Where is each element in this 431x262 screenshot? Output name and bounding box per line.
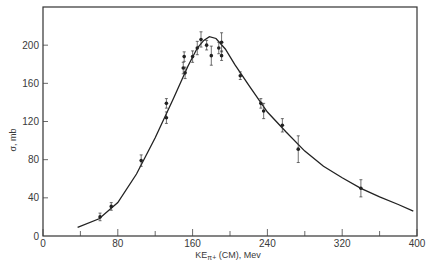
y-tick-label: 40 xyxy=(28,192,40,203)
x-tick-label: 240 xyxy=(259,238,276,249)
x-axis-label-main: KE xyxy=(195,250,207,260)
data-point xyxy=(238,72,242,80)
y-axis-ticks: 04080120160200 xyxy=(22,40,48,242)
y-tick-label: 0 xyxy=(33,231,39,242)
data-point xyxy=(220,33,224,52)
data-point xyxy=(165,112,169,123)
data-point xyxy=(139,155,143,166)
x-tick-label: 320 xyxy=(334,238,351,249)
x-axis-label-sub: π+ xyxy=(207,254,216,261)
y-axis-label: σ, mb xyxy=(8,128,18,151)
x-tick-label: 400 xyxy=(409,238,426,249)
y-tick-label: 80 xyxy=(28,154,40,165)
x-axis-label-rest: (CM), Mev xyxy=(216,250,261,260)
data-point xyxy=(165,99,169,109)
data-point xyxy=(210,46,214,65)
data-point xyxy=(205,40,209,50)
data-point xyxy=(195,41,199,54)
x-tick-label: 160 xyxy=(184,238,201,249)
y-tick-label: 120 xyxy=(22,116,39,127)
plot-frame xyxy=(43,7,417,236)
data-points xyxy=(98,32,362,221)
y-tick-label: 160 xyxy=(22,78,39,89)
data-point xyxy=(182,52,186,62)
cross-section-chart: 080160240320400 04080120160200 σ, mb KEπ… xyxy=(0,0,431,262)
x-axis-ticks: 080160240320400 xyxy=(40,229,426,249)
fit-curve xyxy=(78,37,414,228)
data-point xyxy=(296,136,300,163)
x-axis-label: KEπ+ (CM), Mev xyxy=(195,250,261,261)
x-tick-label: 0 xyxy=(40,238,46,249)
plot-border xyxy=(43,7,417,236)
data-point xyxy=(359,180,363,197)
data-point xyxy=(220,51,224,61)
y-tick-label: 200 xyxy=(22,40,39,51)
x-tick-label: 80 xyxy=(112,238,124,249)
